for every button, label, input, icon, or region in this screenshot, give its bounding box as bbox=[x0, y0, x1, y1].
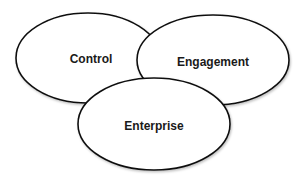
engagement-label: Engagement bbox=[177, 55, 249, 69]
control-label: Control bbox=[70, 52, 113, 66]
enterprise-ellipse-group: Enterprise bbox=[78, 78, 230, 170]
enterprise-label: Enterprise bbox=[124, 119, 184, 133]
venn-diagram: Control Engagement Enterprise bbox=[0, 0, 304, 179]
